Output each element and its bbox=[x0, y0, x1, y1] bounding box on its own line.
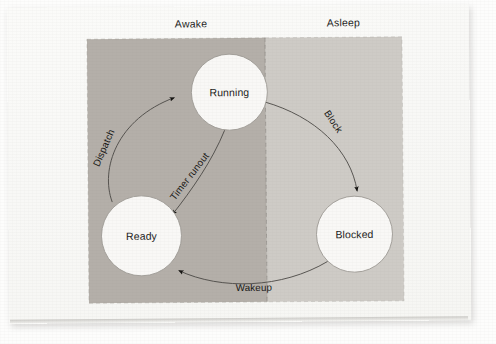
state-node-blocked[interactable]: Blocked bbox=[316, 196, 393, 273]
state-diagram: Running Ready Blocked Dispatch Timer run… bbox=[0, 0, 496, 344]
state-node-running[interactable]: Running bbox=[191, 54, 268, 131]
state-node-ready[interactable]: Ready bbox=[101, 196, 182, 277]
state-label-blocked: Blocked bbox=[335, 228, 373, 240]
transition-label-wakeup: Wakeup bbox=[236, 282, 273, 293]
state-label-running: Running bbox=[209, 86, 249, 98]
state-label-ready: Ready bbox=[126, 230, 158, 242]
diagram-stage: Awake Asleep Running bbox=[0, 0, 496, 344]
figure-root: Awake Asleep Running bbox=[0, 0, 496, 344]
